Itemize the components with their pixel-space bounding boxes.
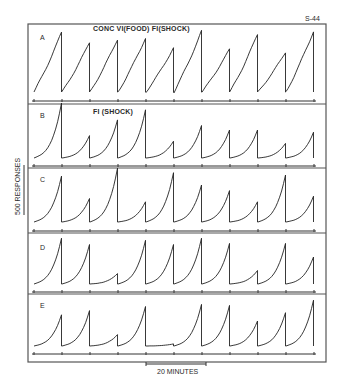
panel-label: C	[40, 176, 45, 183]
panel-label: A	[40, 34, 45, 41]
panel-condition-label: FI (SHOCK)	[93, 108, 133, 116]
panel-condition-label: CONC VI(FOOD) FI(SHOCK)	[93, 25, 190, 33]
cumulative-record-figure: S-44 ACONC VI(FOOD) FI(SHOCK)BFI (SHOCK)…	[0, 0, 342, 389]
panel-label: E	[40, 302, 45, 309]
y-scale-label: 500 RESPONSES	[14, 157, 21, 215]
background	[0, 0, 342, 389]
panel-label: B	[40, 112, 45, 119]
x-scale-label: 20 MINUTES	[157, 368, 199, 375]
figure-id-label: S-44	[305, 15, 320, 22]
panel-label: D	[40, 244, 45, 251]
